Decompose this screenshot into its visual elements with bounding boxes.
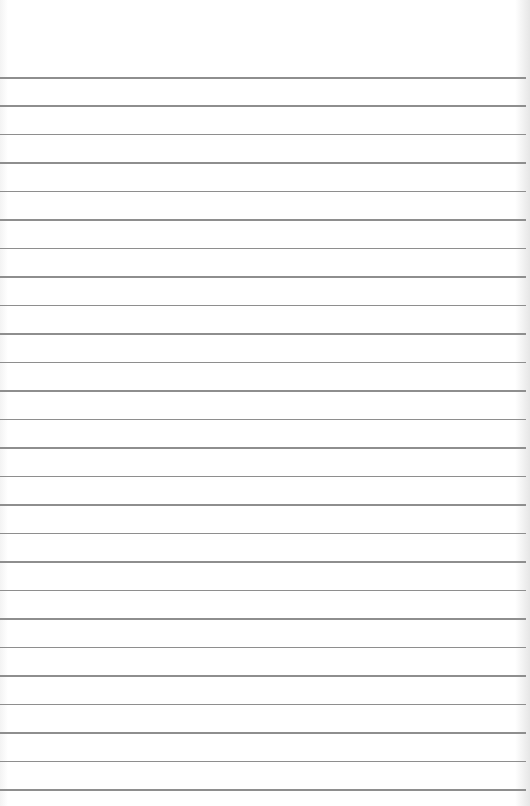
ruled-line — [0, 333, 526, 335]
ruled-line — [0, 134, 526, 136]
ruled-line — [0, 248, 526, 250]
ruled-line — [0, 533, 526, 535]
ruled-line — [0, 162, 526, 164]
ruled-line — [0, 761, 526, 763]
ruled-line — [0, 191, 526, 193]
ruled-line — [0, 419, 526, 421]
ruled-line — [0, 447, 526, 449]
ruled-line — [0, 105, 526, 107]
ruled-line — [0, 704, 526, 706]
ruled-line — [0, 390, 526, 392]
lined-paper — [0, 0, 530, 806]
ruled-line — [0, 590, 526, 592]
ruled-line — [0, 647, 526, 649]
ruled-line — [0, 789, 526, 791]
ruled-line — [0, 561, 526, 563]
ruled-line — [0, 219, 526, 221]
ruled-line — [0, 732, 526, 734]
ruled-line — [0, 675, 526, 677]
ruled-line — [0, 476, 526, 478]
ruled-line — [0, 77, 526, 79]
ruled-line — [0, 618, 526, 620]
ruled-line — [0, 276, 526, 278]
ruled-line — [0, 504, 526, 506]
ruled-line — [0, 362, 526, 364]
ruled-line — [0, 305, 526, 307]
